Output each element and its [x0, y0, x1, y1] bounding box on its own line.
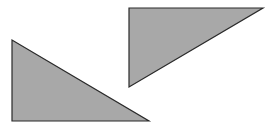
diagram-canvas [0, 0, 269, 125]
triangle-right [129, 8, 263, 87]
